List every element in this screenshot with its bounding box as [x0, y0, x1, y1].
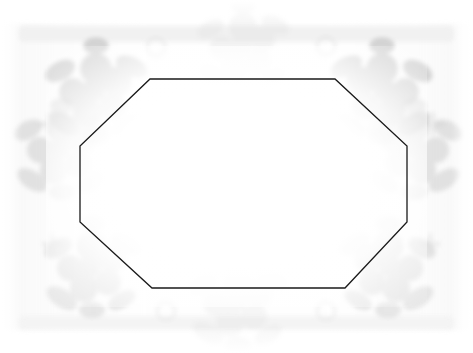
scanned-document-page	[0, 0, 473, 353]
document-content-area	[82, 82, 406, 286]
